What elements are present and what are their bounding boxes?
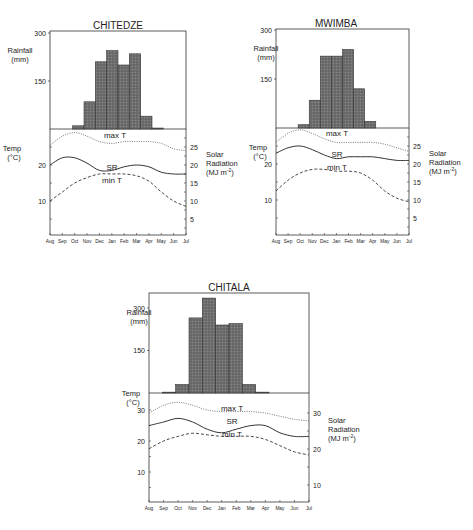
month-label: May bbox=[380, 239, 390, 244]
panel-title: CHITEDZE bbox=[93, 20, 143, 31]
month-label: Nov bbox=[83, 239, 92, 244]
solar-tick-label: 10 bbox=[190, 198, 198, 205]
rainfall-bar bbox=[118, 65, 129, 129]
month-label: Dec bbox=[203, 506, 212, 511]
solar-axis-label: Solar bbox=[328, 416, 346, 425]
rainfall-bar bbox=[202, 298, 215, 393]
month-label: Oct bbox=[174, 506, 182, 511]
min-temp-curve bbox=[276, 169, 409, 202]
month-label: Mar bbox=[247, 506, 256, 511]
month-label: Jun bbox=[170, 239, 178, 244]
rainfall-axis-label: Rainfall bbox=[253, 44, 278, 53]
month-label: Jul bbox=[406, 239, 412, 244]
temp-tick-label: 10 bbox=[38, 198, 46, 205]
month-label: Aug bbox=[272, 239, 281, 244]
month-label: Dec bbox=[320, 239, 329, 244]
rainfall-bar bbox=[176, 385, 189, 394]
rainfall-tick-label: 150 bbox=[260, 76, 272, 83]
temp-tick-label: 20 bbox=[137, 438, 145, 445]
max-temp-label: max T bbox=[104, 131, 126, 140]
solar-tick-label: 5 bbox=[190, 216, 194, 223]
svg-text:(mm): (mm) bbox=[257, 53, 275, 62]
svg-text:(MJ m-2): (MJ m-2) bbox=[328, 433, 356, 443]
panel-title: MWIMBA bbox=[315, 18, 358, 29]
svg-text:(°C): (°C) bbox=[7, 153, 21, 162]
svg-text:(MJ m-2): (MJ m-2) bbox=[429, 166, 457, 176]
svg-text:(MJ m-2): (MJ m-2) bbox=[206, 167, 234, 177]
month-label: Apr bbox=[369, 239, 377, 244]
rainfall-bar bbox=[162, 392, 175, 393]
rainfall-bar bbox=[298, 125, 309, 128]
rainfall-axis-label: Rainfall bbox=[126, 308, 151, 317]
solar-tick-label: 25 bbox=[190, 144, 198, 151]
rainfall-bar bbox=[107, 51, 118, 129]
rainfall-bar bbox=[141, 116, 152, 129]
month-label: Feb bbox=[120, 239, 129, 244]
month-label: May bbox=[275, 506, 285, 511]
max-temp-label: max T bbox=[221, 404, 243, 413]
rainfall-bar bbox=[73, 126, 84, 129]
svg-text:Radiation: Radiation bbox=[429, 158, 461, 167]
rainfall-bar bbox=[343, 50, 354, 128]
solar-tick-label: 15 bbox=[190, 180, 198, 187]
rainfall-tick-label: 300 bbox=[34, 30, 46, 37]
min-temp-label: min T bbox=[102, 176, 122, 185]
month-label: Jan bbox=[333, 239, 341, 244]
solar-tick-label: 25 bbox=[413, 143, 421, 150]
panel-mwimba: MWIMBA150300Rainfall(mm)AugSepOctNovDecJ… bbox=[249, 18, 461, 244]
solar-tick-label: 20 bbox=[190, 162, 198, 169]
temp-tick-label: 10 bbox=[264, 197, 272, 204]
solar-tick-label: 10 bbox=[413, 197, 421, 204]
solar-tick-label: 5 bbox=[413, 215, 417, 222]
month-label: May bbox=[157, 239, 167, 244]
month-label: Oct bbox=[296, 239, 304, 244]
temp-tick-label: 20 bbox=[264, 161, 272, 168]
month-label: Feb bbox=[344, 239, 353, 244]
rainfall-axis-label: Rainfall bbox=[7, 46, 32, 55]
svg-text:Radiation: Radiation bbox=[328, 425, 360, 434]
svg-text:(°C): (°C) bbox=[126, 398, 140, 407]
rainfall-bar bbox=[256, 392, 269, 393]
rainfall-bar bbox=[309, 100, 320, 128]
temp-tick-label: 20 bbox=[38, 162, 46, 169]
temp-axis-label: Temp bbox=[3, 144, 21, 153]
sr-label: SR bbox=[106, 163, 117, 172]
month-label: Sep bbox=[58, 239, 67, 244]
rainfall-tick-label: 150 bbox=[34, 78, 46, 85]
month-label: Oct bbox=[71, 239, 79, 244]
solar-axis-label: Solar bbox=[429, 149, 447, 158]
month-label: Jul bbox=[183, 239, 189, 244]
sr-label: SR bbox=[226, 417, 237, 426]
svg-text:(mm): (mm) bbox=[130, 317, 148, 326]
min-temp-label: min T bbox=[327, 163, 347, 172]
month-label: Aug bbox=[46, 239, 55, 244]
rainfall-bar bbox=[152, 128, 163, 129]
rainfall-bar bbox=[229, 324, 242, 393]
month-label: Mar bbox=[132, 239, 141, 244]
month-label: Nov bbox=[308, 239, 317, 244]
month-label: Jun bbox=[393, 239, 401, 244]
svg-text:(°C): (°C) bbox=[253, 152, 267, 161]
month-label: Jan bbox=[218, 506, 226, 511]
svg-text:(mm): (mm) bbox=[11, 55, 29, 64]
sr-label: SR bbox=[331, 150, 342, 159]
solar-tick-label: 15 bbox=[413, 179, 421, 186]
month-label: Nov bbox=[188, 506, 197, 511]
month-label: Feb bbox=[232, 506, 241, 511]
rainfall-bar bbox=[216, 325, 229, 393]
solar-tick-label: 10 bbox=[313, 482, 321, 489]
panel-chitala: CHITALA150300Rainfall(mm)AugSepOctNovDec… bbox=[122, 282, 360, 511]
rainfall-bar bbox=[320, 56, 331, 128]
rainfall-bar bbox=[84, 102, 95, 129]
rainfall-bar bbox=[331, 56, 342, 128]
panel-chitedze: CHITEDZE150300Rainfall(mm)AugSepOctNovDe… bbox=[3, 20, 238, 244]
rainfall-bar bbox=[365, 121, 376, 128]
solar-tick-label: 20 bbox=[413, 161, 421, 168]
svg-text:Radiation: Radiation bbox=[206, 159, 238, 168]
month-label: Apr bbox=[145, 239, 153, 244]
month-label: Jun bbox=[291, 506, 299, 511]
rainfall-bar bbox=[189, 318, 202, 393]
month-label: Mar bbox=[357, 239, 366, 244]
solar-tick-label: 20 bbox=[313, 446, 321, 453]
rainfall-bar bbox=[354, 89, 365, 128]
